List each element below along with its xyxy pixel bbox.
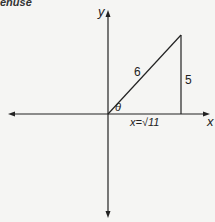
- x-axis-left-arrow-icon: [8, 112, 15, 117]
- y-axis-down-arrow-icon: [106, 211, 111, 218]
- coordinate-plane: [0, 0, 215, 222]
- diagram-canvas: enuse y x 6 5 θ x=√11: [0, 0, 215, 222]
- y-axis-up-arrow-icon: [106, 10, 111, 17]
- opposite-label: 5: [185, 74, 192, 86]
- adjacent-label: x=√11: [130, 117, 159, 128]
- hypotenuse-label: 6: [134, 66, 141, 78]
- x-axis-label: x: [207, 115, 214, 128]
- y-axis-label: y: [98, 5, 105, 18]
- angle-theta-label: θ: [115, 102, 121, 113]
